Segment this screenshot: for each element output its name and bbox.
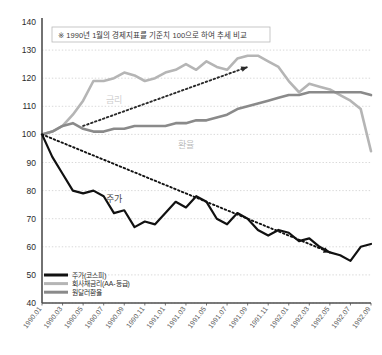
x-axis-tick-label: 1991.07	[207, 305, 228, 329]
note-box: ※ 1990년 1월의 경제지표를 기준치 100으로 하여 추세 비교	[52, 27, 270, 42]
rate-inline-label: 금리	[106, 95, 122, 105]
x-axis-tick-label: 1991.03	[166, 305, 187, 329]
x-axis-tick-label: 1990.07	[83, 305, 104, 329]
x-axis-tick-label: 1991.09	[227, 305, 248, 329]
x-axis-tick-label: 1991.05	[186, 305, 207, 329]
x-axis-tick-label: 1990.11	[125, 305, 146, 329]
legend-label: 회사채금리(AA-등급)	[72, 279, 130, 288]
x-axis-tick-label: 1990.05	[63, 305, 84, 329]
y-axis-tick-label: 130	[22, 45, 36, 55]
stock-inline-label: 주가	[106, 194, 122, 204]
x-axis-tick-label: 1992.09	[351, 305, 372, 329]
legend-label: 원달러환율	[72, 288, 102, 297]
x-axis-tick-label: 1991.11	[248, 305, 269, 329]
x-axis: 1990.011990.031990.051990.071990.091990.…	[22, 303, 372, 330]
rate-trend-arrow-head	[241, 66, 248, 71]
series-line	[42, 92, 371, 134]
y-axis: 140130120110100908070605040	[22, 17, 42, 308]
series-line	[42, 56, 371, 152]
x-axis-tick-label: 1990.09	[104, 305, 125, 329]
legend-label: 주가(코스피)	[72, 271, 107, 280]
line-chart: 140130120110100908070605040 1990.011990.…	[0, 0, 382, 355]
fx-inline-label: 환율	[178, 139, 194, 150]
y-axis-tick-label: 90	[27, 158, 37, 168]
x-axis-tick-label: 1992.01	[268, 305, 289, 329]
y-axis-tick-label: 70	[27, 214, 37, 224]
series-line	[42, 134, 371, 260]
inline-annotations: 금리환율주가	[106, 95, 194, 203]
series-lines	[42, 56, 371, 261]
x-axis-tick-label: 1990.03	[42, 305, 63, 329]
x-axis-tick-label: 1990.01	[22, 305, 43, 329]
y-axis-tick-label: 110	[22, 101, 36, 111]
x-axis-tick-label: 1991.01	[145, 305, 166, 329]
legend: 주가(코스피)회사채금리(AA-등급)원달러환율	[44, 271, 130, 297]
x-axis-tick-label: 1992.07	[330, 305, 351, 329]
y-axis-tick-label: 60	[27, 242, 37, 252]
y-axis-tick-label: 50	[27, 270, 37, 280]
y-axis-tick-label: 40	[27, 298, 37, 308]
chart-container: 140130120110100908070605040 1990.011990.…	[0, 0, 382, 355]
x-axis-tick-label: 1992.03	[289, 305, 310, 329]
note-text: ※ 1990년 1월의 경제지표를 기준치 100으로 하여 추세 비교	[58, 30, 247, 40]
y-axis-tick-label: 140	[22, 17, 36, 27]
y-axis-tick-label: 100	[22, 129, 36, 139]
y-axis-tick-label: 80	[27, 186, 37, 196]
y-axis-tick-label: 120	[22, 73, 36, 83]
x-axis-tick-label: 1992.05	[310, 305, 331, 329]
